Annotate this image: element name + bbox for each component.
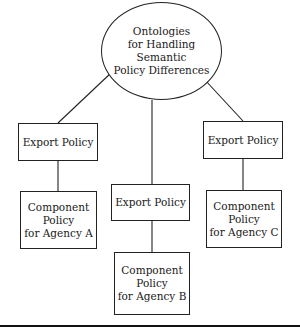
export-policy-b-label: Export Policy <box>115 196 186 209</box>
component-c-line-3: for Agency C <box>209 226 278 239</box>
export-policy-c-node: Export Policy <box>203 121 283 159</box>
export-policy-c-label: Export Policy <box>208 134 279 147</box>
component-a-line-3: for Agency A <box>24 227 93 240</box>
component-policy-a-node: Component Policy for Agency A <box>20 191 97 249</box>
export-policy-a-node: Export Policy <box>18 123 98 161</box>
export-policy-a-label: Export Policy <box>23 136 94 149</box>
root-line-3: Policy Differences <box>102 64 221 77</box>
component-c-line-1: Component <box>209 200 278 213</box>
root-ontology-node: Ontologies for Handling Semantic Policy … <box>101 2 222 100</box>
component-b-line-2: Policy <box>118 277 187 290</box>
component-c-line-2: Policy <box>209 213 278 226</box>
component-b-line-3: for Agency B <box>118 290 187 303</box>
root-line-2: for Handling Semantic <box>102 38 221 64</box>
component-a-line-1: Component <box>24 201 93 214</box>
export-policy-b-node: Export Policy <box>111 184 190 221</box>
root-line-1: Ontologies <box>102 25 221 38</box>
component-a-line-2: Policy <box>24 214 93 227</box>
component-b-line-1: Component <box>118 264 187 277</box>
component-policy-c-node: Component Policy for Agency C <box>206 190 282 248</box>
component-policy-b-node: Component Policy for Agency B <box>114 252 190 315</box>
bottom-rule <box>0 325 300 327</box>
